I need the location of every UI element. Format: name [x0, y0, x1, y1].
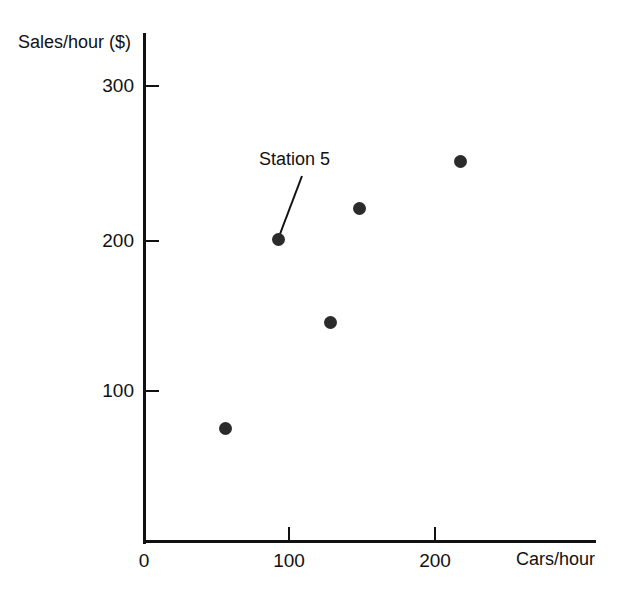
data-point: [353, 202, 366, 215]
x-axis-tick-100: [288, 527, 290, 540]
clipped-header-text: [196, 0, 446, 5]
y-axis-tick-300: [146, 85, 159, 87]
y-axis-tick-200: [146, 240, 159, 242]
data-point: [272, 233, 285, 246]
x-axis-tick-200: [434, 527, 436, 540]
y-axis-line: [143, 33, 146, 544]
x-axis-line: [143, 540, 596, 543]
y-axis-title: Sales/hour ($): [18, 32, 131, 52]
scatter-plot-figure: 300 200 100 0 100 200 Sales/hour ($) Car…: [0, 0, 626, 597]
data-point: [219, 422, 232, 435]
y-axis-label-200: 200: [72, 231, 134, 250]
y-axis-tick-100: [146, 390, 159, 392]
x-axis-label-100: 100: [259, 551, 319, 570]
x-axis-title: Cars/hour: [516, 549, 595, 569]
data-point: [454, 155, 467, 168]
y-axis-label-100: 100: [72, 381, 134, 400]
y-axis-label-300: 300: [72, 76, 134, 95]
data-point: [324, 316, 337, 329]
x-axis-label-200: 200: [405, 551, 465, 570]
annotation-label-station-5: Station 5: [259, 149, 330, 169]
x-axis-label-0: 0: [114, 551, 174, 570]
